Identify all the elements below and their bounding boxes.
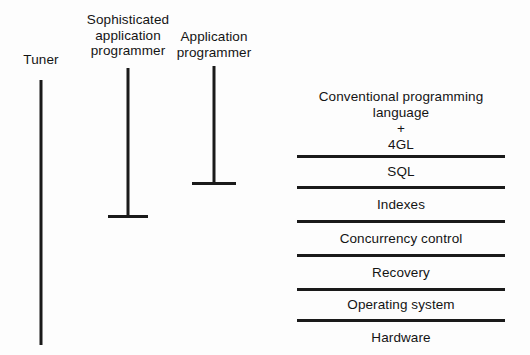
role-label-line: programmer — [177, 45, 252, 61]
layer-text-line: Conventional programming — [319, 89, 484, 105]
role-stem-sophisticated-application-programmer — [127, 68, 130, 216]
layer-text-line: Recovery — [372, 265, 430, 281]
layer-hardware: Hardware — [297, 319, 505, 353]
layer-text-line: Operating system — [347, 297, 454, 313]
role-label-sophisticated-application-programmer: Sophisticated application programmer — [87, 12, 169, 59]
role-stem-application-programmer — [213, 66, 216, 183]
layer-text-line: SQL — [387, 164, 414, 180]
role-label-tuner: Tuner — [23, 52, 58, 68]
role-label-line: Application — [177, 29, 252, 45]
layer-stack: Conventional programming language + 4GL … — [297, 80, 505, 353]
role-foot-application-programmer — [192, 182, 236, 185]
layer-sql: SQL — [297, 155, 505, 186]
layer-text-line: Indexes — [377, 197, 425, 213]
layer-recovery: Recovery — [297, 254, 505, 288]
layer-text-line: + — [397, 121, 405, 137]
layer-text-line: Hardware — [371, 330, 430, 346]
role-foot-sophisticated-application-programmer — [108, 215, 148, 218]
role-stem-tuner — [40, 80, 43, 345]
layer-operating-system: Operating system — [297, 288, 505, 319]
layer-text-line: language — [373, 105, 429, 121]
layer-text-line: Concurrency control — [340, 231, 463, 247]
role-label-line: programmer — [87, 43, 169, 59]
role-label-line: Sophisticated — [87, 12, 169, 28]
layer-conventional-programming-language-4gl: Conventional programming language + 4GL — [297, 80, 505, 155]
layer-text-line: 4GL — [388, 137, 414, 153]
layer-indexes: Indexes — [297, 186, 505, 220]
role-label-application-programmer: Application programmer — [177, 29, 252, 60]
diagram-canvas: Tuner Sophisticated application programm… — [0, 0, 530, 355]
role-label-line: Tuner — [23, 52, 58, 68]
role-label-line: application — [87, 28, 169, 44]
layer-concurrency-control: Concurrency control — [297, 220, 505, 254]
